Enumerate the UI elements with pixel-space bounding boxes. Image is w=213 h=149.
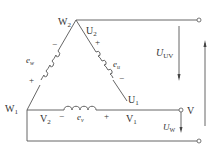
polarity-left-bottom: +	[29, 75, 34, 85]
winding-w	[27, 20, 76, 110]
label-u1: U1	[128, 94, 139, 107]
label-uuv: UUV	[156, 47, 173, 60]
winding-u	[76, 20, 127, 101]
polarity-right-bottom: −	[119, 73, 124, 83]
coil-u-icon	[96, 51, 113, 78]
label-v1: V1	[126, 113, 137, 126]
label-w1: W1	[5, 103, 18, 116]
delta-winding-diagram: W2 U2 U1 W1 V2 V1 V ew eu ev − + + − − +…	[0, 0, 213, 149]
arrow-down-icon	[180, 127, 183, 133]
label-v2: V2	[40, 113, 51, 126]
label-uw: UW	[163, 122, 176, 133]
coil-w-icon	[41, 51, 60, 80]
arrow-up-icon	[204, 40, 207, 47]
label-ev: ev	[77, 112, 84, 123]
arrow-down-icon	[178, 74, 181, 81]
label-eu: eu	[113, 59, 120, 70]
polarity-bottom-left: −	[59, 111, 64, 121]
label-v-terminal: V	[187, 105, 195, 116]
polarity-right-top: +	[95, 37, 100, 47]
circuit-svg: W2 U2 U1 W1 V2 V1 V ew eu ev − + + − − +…	[0, 0, 213, 149]
winding-v	[27, 106, 179, 110]
label-ew: ew	[26, 55, 34, 66]
polarity-bottom-right: +	[104, 111, 109, 121]
polarity-left-top: −	[52, 39, 57, 49]
top-terminal-icon	[197, 18, 201, 22]
bottom-line-wire	[27, 110, 197, 141]
label-w2: W2	[58, 16, 71, 29]
v-terminal-icon	[179, 108, 183, 112]
coil-v-icon	[64, 106, 96, 110]
bottom-terminal-icon	[197, 139, 201, 143]
